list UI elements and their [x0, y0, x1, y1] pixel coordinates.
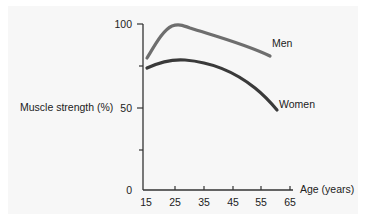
women-line	[147, 60, 277, 110]
x-tick-label-15: 15	[140, 196, 152, 208]
y-tick-label-100: 100	[114, 18, 132, 30]
y-axis-label: Muscle strength (%)	[20, 101, 113, 113]
x-tick-label-45: 45	[227, 196, 239, 208]
x-tick-label-25: 25	[169, 196, 181, 208]
x-tick-label-35: 35	[198, 196, 210, 208]
x-tick-label-55: 55	[255, 196, 267, 208]
line-chart: 100 50 0 15 25 35 45 55 65 Muscle streng…	[0, 0, 366, 222]
x-axis-label: Age (years)	[300, 183, 354, 195]
women-label: Women	[279, 98, 315, 110]
men-label: Men	[272, 37, 293, 49]
men-line	[147, 25, 270, 58]
y-tick-label-50: 50	[120, 102, 132, 114]
x-tick-label-65: 65	[284, 196, 296, 208]
y-tick-label-0: 0	[126, 184, 132, 196]
